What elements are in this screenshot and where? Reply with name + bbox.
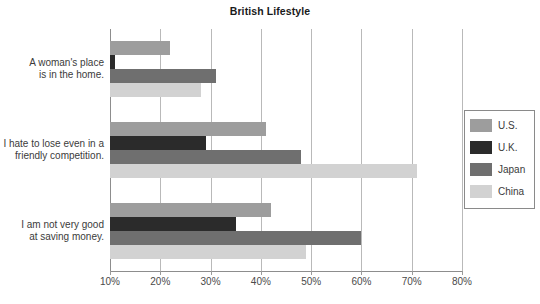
legend-swatch-icon bbox=[470, 185, 492, 198]
chart-legend: U.S.U.K.JapanChina bbox=[464, 110, 535, 209]
legend-label: U.K. bbox=[498, 141, 517, 154]
tick-mark bbox=[160, 271, 161, 275]
x-tick-label: 50% bbox=[291, 276, 331, 287]
chart-container: British Lifestyle A woman's placeis in t… bbox=[0, 0, 540, 304]
gridline-80pct bbox=[462, 29, 463, 272]
category-label-line: I am not very good bbox=[0, 219, 104, 231]
bar-uk-group3[interactable] bbox=[110, 217, 236, 231]
tick-mark bbox=[110, 271, 111, 275]
category-label-2: I hate to lose even in afriendly competi… bbox=[0, 138, 104, 162]
category-label-line: A woman's place bbox=[0, 57, 104, 69]
tick-mark bbox=[311, 271, 312, 275]
bar-group-2 bbox=[110, 122, 462, 178]
category-label-line: friendly competition. bbox=[0, 150, 104, 162]
bar-group-1 bbox=[110, 41, 462, 97]
legend-swatch-icon bbox=[470, 141, 492, 154]
bar-japan-group2[interactable] bbox=[110, 150, 301, 164]
category-label-line: I hate to lose even in a bbox=[0, 138, 104, 150]
legend-item-uk[interactable]: U.K. bbox=[470, 139, 532, 157]
category-label-line: at saving money. bbox=[0, 231, 104, 243]
x-tick-label: 10% bbox=[90, 276, 130, 287]
bar-japan-group1[interactable] bbox=[110, 69, 216, 83]
bar-group-3 bbox=[110, 203, 462, 259]
legend-swatch-icon bbox=[470, 119, 492, 132]
plot-area bbox=[110, 29, 462, 272]
x-axis-baseline bbox=[110, 271, 463, 272]
tick-mark bbox=[462, 271, 463, 275]
tick-mark bbox=[412, 271, 413, 275]
bar-us-group2[interactable] bbox=[110, 122, 266, 136]
legend-item-china[interactable]: China bbox=[470, 183, 532, 201]
x-tick-label: 40% bbox=[241, 276, 281, 287]
x-tick-label: 60% bbox=[341, 276, 381, 287]
legend-label: China bbox=[498, 185, 524, 198]
category-axis-labels: A woman's placeis in the home.I hate to … bbox=[0, 0, 104, 304]
legend-label: U.S. bbox=[498, 119, 517, 132]
legend-item-japan[interactable]: Japan bbox=[470, 161, 532, 179]
bar-uk-group1[interactable] bbox=[110, 55, 115, 69]
tick-mark bbox=[361, 271, 362, 275]
x-tick-label: 30% bbox=[191, 276, 231, 287]
x-tick-label: 70% bbox=[392, 276, 432, 287]
bar-us-group1[interactable] bbox=[110, 41, 170, 55]
category-label-1: A woman's placeis in the home. bbox=[0, 57, 104, 81]
bar-us-group3[interactable] bbox=[110, 203, 271, 217]
legend-label: Japan bbox=[498, 163, 525, 176]
bar-china-group2[interactable] bbox=[110, 164, 417, 178]
bar-china-group1[interactable] bbox=[110, 83, 201, 97]
x-tick-label: 20% bbox=[140, 276, 180, 287]
legend-swatch-icon bbox=[470, 163, 492, 176]
bar-uk-group2[interactable] bbox=[110, 136, 206, 150]
bar-japan-group3[interactable] bbox=[110, 231, 361, 245]
category-label-line: is in the home. bbox=[0, 69, 104, 81]
tick-mark bbox=[261, 271, 262, 275]
bar-china-group3[interactable] bbox=[110, 245, 306, 259]
legend-item-us[interactable]: U.S. bbox=[470, 117, 532, 135]
category-label-3: I am not very goodat saving money. bbox=[0, 219, 104, 243]
x-tick-label: 80% bbox=[442, 276, 482, 287]
tick-mark bbox=[211, 271, 212, 275]
